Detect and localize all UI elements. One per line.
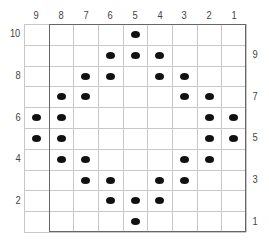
row-label-right: 5 (252, 131, 257, 143)
column-label: 9 (26, 9, 46, 21)
column-label: 3 (174, 9, 194, 21)
column-label: 5 (125, 9, 145, 21)
stitch-dot (57, 93, 66, 100)
row-label-left: 6 (15, 111, 20, 123)
stitch-dot (81, 73, 90, 80)
stitch-dot (131, 52, 140, 59)
stitch-dot (57, 114, 66, 121)
row-label-left: 10 (10, 27, 20, 39)
stitch-dot (205, 114, 214, 121)
stitch-dot (155, 52, 164, 59)
column-label: 8 (51, 9, 71, 21)
stitch-dot (81, 177, 90, 184)
knitting-chart: 98765432110864297531 (0, 0, 269, 247)
row-label-right: 3 (252, 173, 257, 185)
column-label: 7 (75, 9, 95, 21)
grid-line-vertical (246, 24, 247, 232)
row-label-left: 4 (15, 152, 20, 164)
stitch-dot (81, 156, 90, 163)
stitch-dot (205, 93, 214, 100)
stitch-dot (205, 135, 214, 142)
stitch-dot (57, 135, 66, 142)
row-label-right: 1 (252, 215, 257, 227)
chart-frame (49, 24, 246, 232)
stitch-dot (131, 31, 140, 38)
row-label-right: 9 (252, 48, 257, 60)
column-label: 6 (100, 9, 120, 21)
stitch-dot (180, 156, 189, 163)
stitch-dot (229, 135, 238, 142)
stitch-dot (155, 177, 164, 184)
stitch-dot (180, 177, 189, 184)
column-label: 2 (199, 9, 219, 21)
column-label: 4 (149, 9, 169, 21)
stitch-dot (32, 135, 41, 142)
stitch-dot (106, 52, 115, 59)
stitch-dot (155, 73, 164, 80)
stitch-dot (106, 73, 115, 80)
column-label: 1 (223, 9, 243, 21)
stitch-dot (106, 177, 115, 184)
stitch-dot (131, 197, 140, 204)
row-label-left: 8 (15, 69, 20, 81)
grid-line-horizontal (24, 232, 246, 233)
stitch-dot (57, 156, 66, 163)
stitch-dot (131, 218, 140, 225)
row-label-right: 7 (252, 90, 257, 102)
stitch-dot (180, 73, 189, 80)
stitch-dot (205, 156, 214, 163)
stitch-dot (32, 114, 41, 121)
row-label-left: 2 (15, 194, 20, 206)
